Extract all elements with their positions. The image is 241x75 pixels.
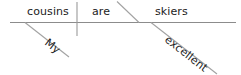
word-complement-modifier: excellent: [162, 33, 210, 75]
complement-slant-rule: [117, 2, 139, 23]
word-subject: cousins: [27, 5, 69, 18]
word-verb: are: [92, 5, 110, 18]
word-subject-modifier: My: [42, 36, 63, 56]
word-predicate-nominative: skiers: [155, 5, 188, 18]
diagram-canvas: cousins are skiers My excellent: [0, 0, 241, 75]
sentence-diagram: cousins are skiers My excellent: [0, 0, 241, 75]
